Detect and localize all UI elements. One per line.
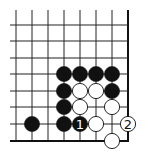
move-number: 2 bbox=[124, 117, 132, 132]
white-stone-2: 2 bbox=[120, 116, 135, 131]
white-stone bbox=[104, 99, 119, 114]
black-stone bbox=[56, 83, 71, 98]
go-board: 12 bbox=[0, 0, 149, 160]
white-stone bbox=[72, 99, 87, 114]
move-number: 1 bbox=[76, 117, 84, 132]
black-stone-1: 1 bbox=[72, 116, 87, 131]
black-stone bbox=[56, 116, 71, 131]
black-stone bbox=[88, 66, 103, 81]
white-stone bbox=[72, 83, 87, 98]
black-stone bbox=[104, 83, 119, 98]
white-stone bbox=[88, 83, 103, 98]
white-stone bbox=[88, 116, 103, 131]
black-stone bbox=[24, 116, 39, 131]
white-stone bbox=[104, 133, 119, 148]
black-stone bbox=[72, 66, 87, 81]
black-stone bbox=[56, 66, 71, 81]
black-stone bbox=[56, 99, 71, 114]
black-stone bbox=[104, 66, 119, 81]
